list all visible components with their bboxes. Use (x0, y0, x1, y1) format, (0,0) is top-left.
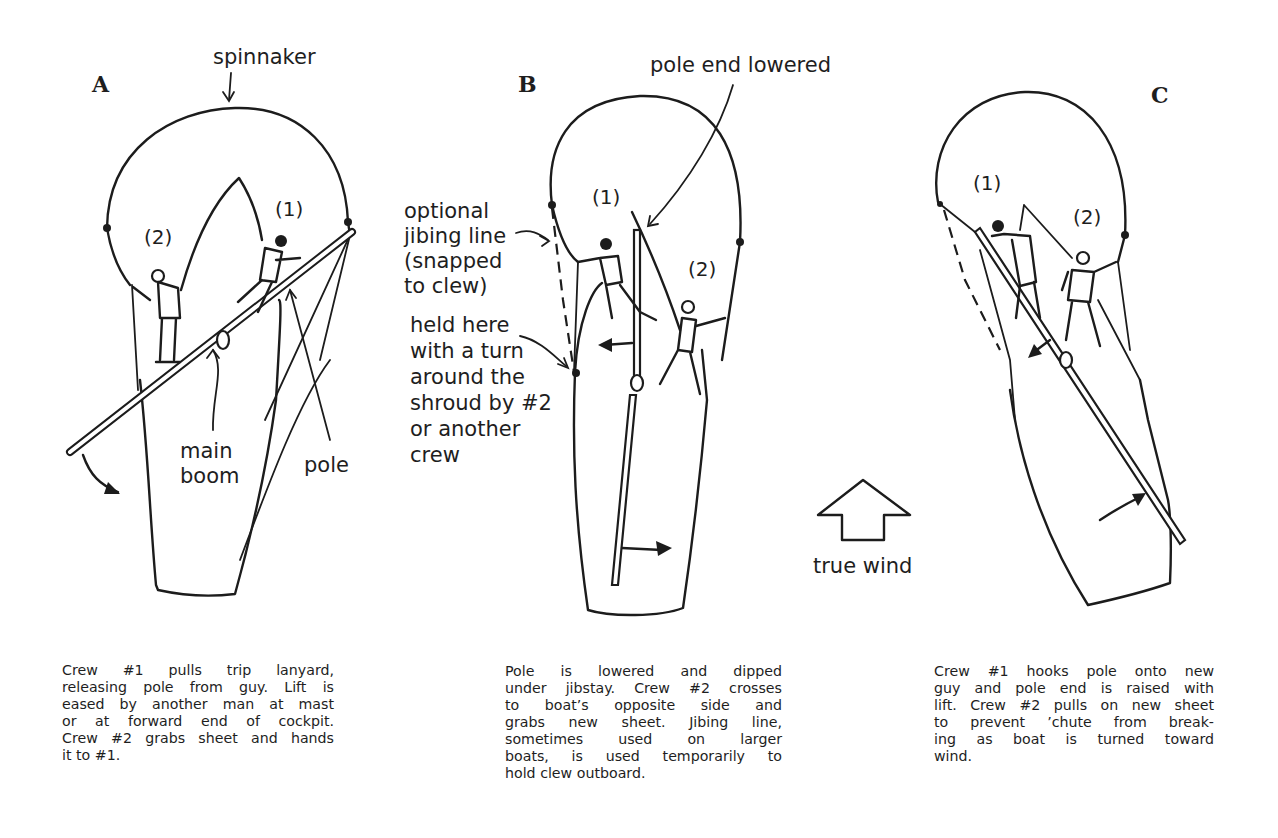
panel-letter-c: C (1151, 82, 1169, 108)
caption-line: to prevent ’chute from break- (934, 714, 1214, 731)
panel-b: B pole end lowered (1) (2) (403, 53, 831, 615)
main-boom-pointer (213, 350, 218, 430)
jibing-line-dashed-c (944, 210, 1000, 350)
caption-line: Pole is lowered and dipped (505, 663, 782, 680)
caption-line: hold clew outboard. (505, 765, 782, 782)
crew-figure-2-c (1062, 252, 1116, 346)
sheet-line (132, 285, 138, 390)
pole-fitting-ring-c (1060, 352, 1072, 368)
crew-figure-2 (133, 270, 180, 362)
crew-figure-1-b (578, 238, 656, 320)
caption-panel-a: Crew #1 pulls trip lanyard, releasing po… (62, 662, 334, 764)
main-boom-b (612, 395, 636, 585)
crew-figure-2-b (660, 301, 725, 394)
label-jibing-line: optional jibing line (snapped to clew) (403, 199, 513, 298)
label-main-boom-line2: boom (180, 464, 239, 488)
label-crew-2: (2) (1073, 205, 1101, 229)
caption-line: Crew #1 pulls trip lanyard, (62, 662, 334, 679)
jibing-line-dashed (552, 208, 574, 372)
label-spinnaker: spinnaker (213, 45, 316, 69)
caption-line: eased by another man at mast (62, 696, 334, 713)
caption-line: under jibstay. Crew #2 crosses (505, 680, 782, 697)
panel-letter-a: A (91, 71, 110, 97)
boom-swing-arrow (83, 455, 118, 492)
caption-line: it to #1. (62, 747, 334, 764)
hollow-up-arrow-icon (818, 480, 910, 540)
caption-line: sometimes used on larger (505, 731, 782, 748)
boom-move-right-arrow (622, 548, 662, 550)
lift-line-c (1020, 205, 1072, 258)
panel-c: C (1) (2) (936, 82, 1185, 605)
label-pole: pole (304, 453, 349, 477)
label-crew-2: (2) (144, 225, 172, 249)
pole-fitting-ring (631, 375, 643, 391)
panel-letter-b: B (518, 71, 537, 97)
caption-line: guy and pole end is raised with (934, 680, 1214, 697)
boom-fitting-ring (217, 331, 229, 349)
shroud-turn-point (572, 369, 580, 377)
label-crew-2: (2) (688, 257, 716, 281)
label-crew-1: (1) (275, 197, 303, 221)
caption-line: lift. Crew #2 pulls on new sheet (934, 697, 1214, 714)
caption-line: wind. (934, 748, 1214, 765)
caption-line: boats, is used temporarily to (505, 748, 782, 765)
label-true-wind: true wind (813, 554, 912, 578)
caption-line: Crew #2 grabs sheet and hands (62, 730, 334, 747)
mainsail-a (181, 178, 262, 290)
true-wind-indicator: true wind (813, 480, 912, 578)
caption-line: Crew #1 hooks pole onto new (934, 663, 1214, 680)
caption-line: or at forward end of cockpit. (62, 713, 334, 730)
sail-corner-dot (103, 224, 111, 232)
sail-corner-dot (344, 218, 352, 226)
spinnaker-pole-c (975, 228, 1185, 544)
label-pole-end-lowered: pole end lowered (650, 53, 831, 77)
label-held-here: held here with a turn around the shroud … (410, 313, 559, 467)
caption-line: to boat’s opposite side and (505, 697, 782, 714)
caption-line: ing as boat is turned toward (934, 731, 1214, 748)
caption-line: releasing pole from guy. Lift is (62, 679, 334, 696)
caption-panel-c: Crew #1 hooks pole onto new guy and pole… (934, 663, 1214, 765)
caption-panel-b: Pole is lowered and dipped under jibstay… (505, 663, 782, 782)
caption-line: grabs new sheet. Jibing line, (505, 714, 782, 731)
label-crew-1: (1) (592, 185, 620, 209)
pole-pointer (290, 290, 330, 440)
label-main-boom-line1: main (180, 439, 232, 463)
label-crew-1: (1) (973, 171, 1001, 195)
panel-a: A spinnaker (2) (1) (70, 45, 352, 596)
pole-raise-arrow (1100, 498, 1138, 520)
spinnaker-pointer-arrow (229, 73, 231, 100)
